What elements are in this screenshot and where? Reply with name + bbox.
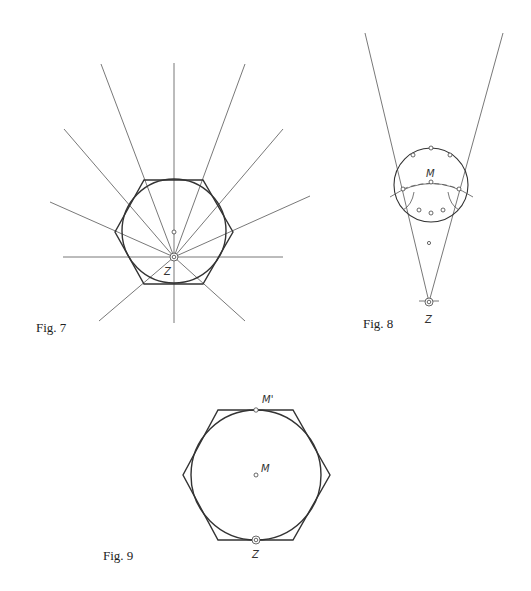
fig7-caption: Fig. 7 (36, 320, 66, 336)
figure-8: M Z (365, 33, 503, 325)
fig9-z-point-inner (254, 538, 258, 542)
fig8-circle-points (401, 146, 461, 215)
fig8-caption: Fig. 8 (363, 316, 393, 332)
figure-9: M' M Z (183, 394, 330, 560)
fig9-label-m: M (261, 463, 270, 474)
fig9-caption: Fig. 9 (103, 548, 133, 564)
diagram-canvas: Z M Z M' (0, 0, 531, 591)
fig7-center-point (172, 230, 176, 234)
fig9-m-point (254, 473, 258, 477)
fig9-label-z: Z (251, 549, 260, 560)
fig8-label-m: M (426, 168, 435, 179)
figure-7: Z (50, 63, 310, 323)
fig8-left-line (365, 33, 429, 302)
fig8-right-line (429, 33, 503, 302)
fig8-label-z: Z (424, 314, 433, 325)
fig8-z-point-inner (427, 300, 431, 304)
fig8-right-angle-arc (448, 192, 459, 210)
fig8-small-point (427, 241, 430, 244)
fig9-m-prime-point (254, 408, 258, 412)
fig7-label-z: Z (163, 266, 172, 277)
fig9-label-m-prime: M' (262, 394, 273, 405)
fig7-z-point-inner (172, 255, 176, 259)
